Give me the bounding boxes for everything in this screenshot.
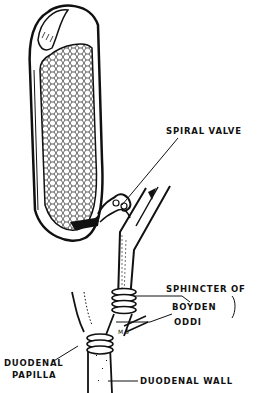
cystic-duct	[98, 194, 130, 222]
sphincter-oddi-rings	[87, 334, 113, 354]
label-duodenal-wall: DUODENAL WALL	[140, 376, 233, 386]
label-sphincter-of: SPHINCTER OF	[166, 284, 246, 294]
label-duodenal-papilla-line2: PAPILLA	[12, 370, 56, 380]
sphincter-boyden-rings	[112, 289, 136, 314]
label-spiral-valve: SPIRAL VALVE	[166, 126, 242, 136]
diagram-illustration	[0, 0, 258, 393]
label-duodenal-papilla-line1: DUODENAL	[4, 358, 64, 368]
anatomy-diagram: SPIRAL VALVE SPHINCTER OF BOYDEN ODDI DU…	[0, 0, 258, 393]
gallbladder	[30, 6, 103, 241]
label-boyden: BOYDEN	[172, 302, 216, 312]
label-artist-initials: M.S	[118, 328, 129, 335]
label-oddi: ODDI	[174, 317, 202, 327]
